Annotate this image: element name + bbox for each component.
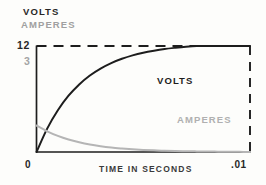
chart-figure: VOLTS AMPERES 12 3 0 .01 TIME IN SECONDS… bbox=[0, 0, 266, 185]
y-tick-label-12: 12 bbox=[17, 40, 30, 51]
x-tick-label-0: 0 bbox=[25, 160, 31, 170]
series-line-volts bbox=[37, 46, 251, 152]
x-axis-title: TIME IN SECONDS bbox=[99, 165, 193, 174]
x-tick-label-01: .01 bbox=[231, 160, 247, 170]
legend-entry-amperes: AMPERES bbox=[21, 20, 76, 30]
y-tick-label-3: 3 bbox=[24, 56, 30, 67]
series-line-amperes bbox=[37, 126, 251, 153]
amperes-curve-label: AMPERES bbox=[177, 115, 232, 125]
legend-entry-volts: VOLTS bbox=[23, 7, 59, 17]
volts-curve-label: VOLTS bbox=[157, 76, 193, 86]
